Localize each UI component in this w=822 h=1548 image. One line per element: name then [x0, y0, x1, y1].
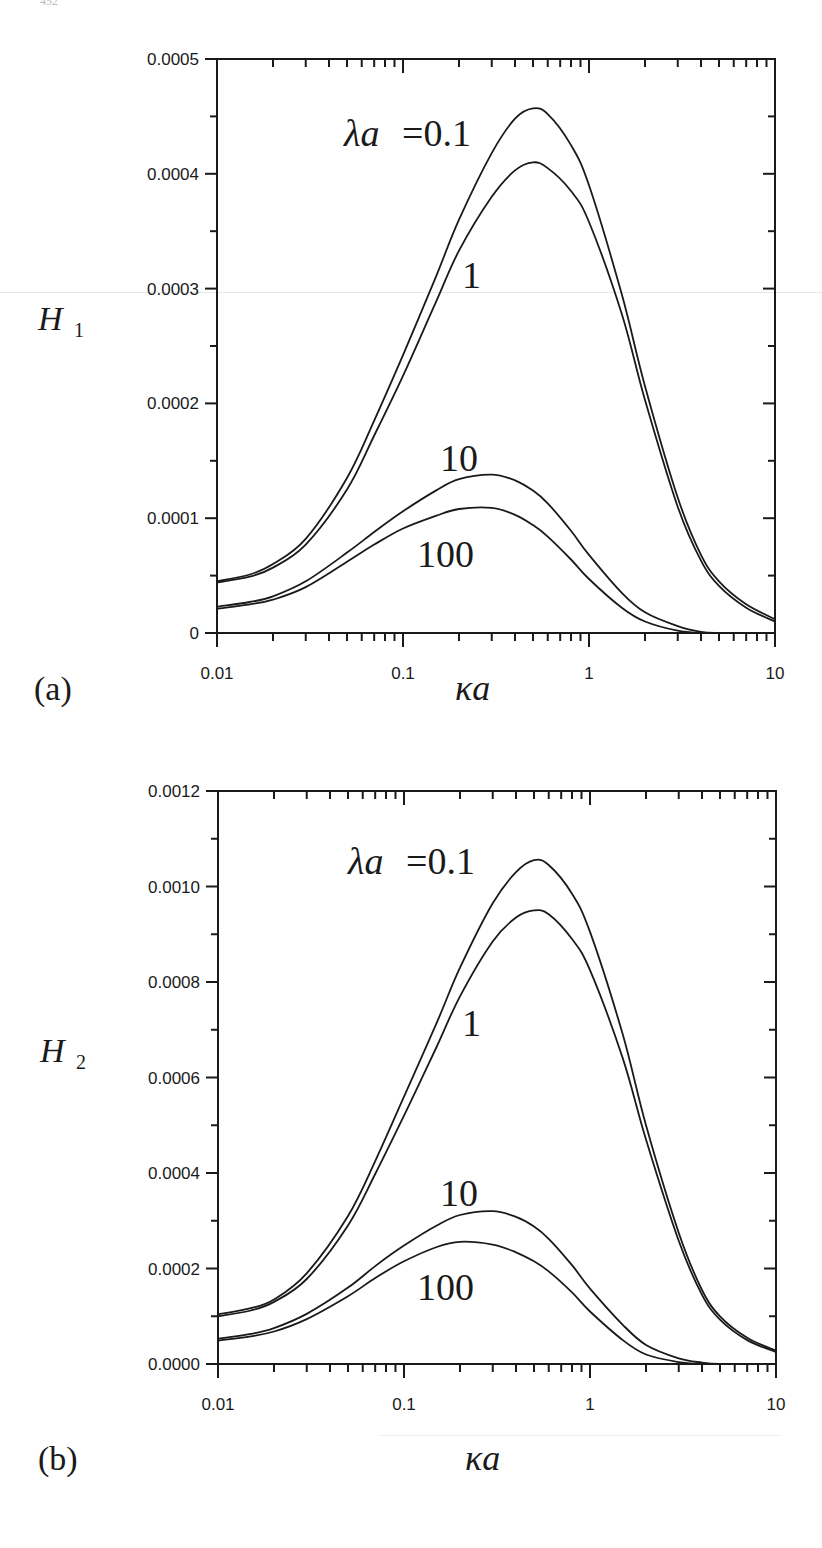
y-tick-label: 0.0006 — [148, 1069, 200, 1088]
y-tick-label: 0.0012 — [148, 782, 200, 801]
y-tick-label: 0.0008 — [148, 973, 200, 992]
curve-label-100: 100 — [417, 1266, 474, 1308]
y-tick-label: 0.0002 — [148, 1260, 200, 1279]
y-tick-label: 0.0000 — [148, 1355, 200, 1374]
x-tick-label: 10 — [767, 1395, 786, 1414]
curve-label-1: 1 — [462, 1002, 481, 1044]
curve-label-0.1-value: =0.1 — [406, 840, 475, 882]
curves — [218, 860, 776, 1364]
x-tick-label: 0.01 — [201, 1395, 234, 1414]
chart-panel-b: H 2 (b) κa 0.00000.00020.00040.00060.000… — [0, 0, 822, 1548]
y-tick-label: 0.0004 — [148, 1164, 200, 1183]
y-tick-label: 0.0010 — [148, 878, 200, 897]
curve-label-10: 10 — [440, 1172, 478, 1214]
curve-λa=100 — [218, 1242, 776, 1364]
curve-λa=10 — [218, 1211, 776, 1364]
curve-λa=1 — [218, 910, 776, 1352]
x-axis-title: κa — [465, 1438, 500, 1478]
x-tick-label: 0.1 — [392, 1395, 416, 1414]
curve-label-0.1: λa — [347, 840, 383, 882]
y-axis-title: H 2 — [39, 1032, 86, 1073]
x-tick-label: 1 — [585, 1395, 594, 1414]
panel-label: (b) — [38, 1440, 78, 1478]
curve-λa=0.1 — [218, 860, 776, 1351]
svg-text:H: H — [39, 1032, 67, 1069]
svg-text:2: 2 — [76, 1051, 86, 1073]
